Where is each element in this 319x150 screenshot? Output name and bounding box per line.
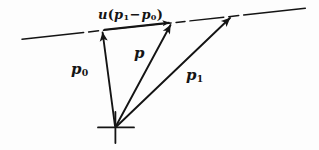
vector-p0 xyxy=(103,33,115,127)
displacement-arrow-u xyxy=(105,23,170,30)
label-p: p xyxy=(134,46,145,61)
vector-diagram-figure: u(p1−p0) p0 p p1 xyxy=(0,0,319,150)
label-u-close-paren: ) xyxy=(157,7,163,22)
label-u-term1-sub: 1 xyxy=(123,12,129,22)
label-p0: p0 xyxy=(71,62,88,77)
label-u-expression: u(p1−p0) xyxy=(98,8,163,22)
label-p1-sub: 1 xyxy=(197,73,203,84)
label-u-term1-base: p xyxy=(114,7,123,22)
label-p0-sub: 0 xyxy=(82,67,88,78)
label-p1-base: p xyxy=(186,66,197,84)
label-p0-base: p xyxy=(71,60,82,78)
label-u-operator: − xyxy=(130,7,141,22)
label-p1: p1 xyxy=(186,68,203,83)
vector-p1 xyxy=(117,18,230,126)
diagram-canvas xyxy=(0,0,319,150)
vector-p xyxy=(116,25,171,126)
label-u-scalar: u xyxy=(98,7,108,22)
label-u-term2-base: p xyxy=(141,7,150,22)
origin-cross-marker xyxy=(98,112,134,143)
label-p-base: p xyxy=(134,44,145,62)
